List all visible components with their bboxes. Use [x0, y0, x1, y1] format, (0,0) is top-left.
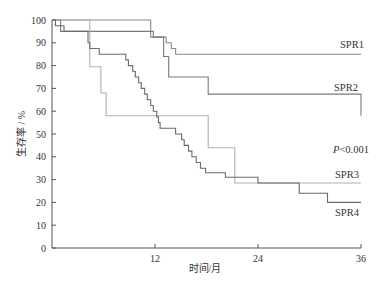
y-tick-label: 10: [36, 220, 46, 231]
y-tick-label: 70: [36, 83, 46, 94]
x-tick-label: 36: [356, 253, 366, 264]
y-tick-label: 20: [36, 197, 46, 208]
survival-curves: [52, 20, 361, 202]
curve-spr3: [52, 20, 361, 183]
survival-chart: 0102030405060708090100 122436 SPR1 SPR2 …: [0, 0, 382, 284]
y-tick-label: 40: [36, 151, 46, 162]
label-spr1: SPR1: [340, 39, 364, 50]
y-axis-title: 生存率 / %: [15, 111, 27, 157]
y-tick-label: 80: [36, 60, 46, 71]
y-tick-label: 50: [36, 129, 46, 140]
x-tick-label: 12: [150, 253, 160, 264]
y-tick-label: 90: [36, 37, 46, 48]
p-value-annotation: P<0.001: [332, 144, 369, 155]
curve-spr2: [52, 20, 361, 116]
x-tick-label: 24: [253, 253, 263, 264]
curve-spr4: [52, 20, 361, 202]
x-axis-ticks: 122436: [150, 244, 366, 264]
label-spr4: SPR4: [335, 207, 360, 218]
y-tick-label: 100: [31, 15, 46, 26]
label-spr2: SPR2: [334, 82, 358, 93]
x-axis-title: 时间/月: [189, 262, 222, 274]
y-tick-label: 60: [36, 106, 46, 117]
curve-spr1: [52, 20, 361, 54]
label-spr3: SPR3: [335, 169, 359, 180]
y-tick-label: 30: [36, 174, 46, 185]
y-tick-label: 0: [41, 243, 46, 254]
